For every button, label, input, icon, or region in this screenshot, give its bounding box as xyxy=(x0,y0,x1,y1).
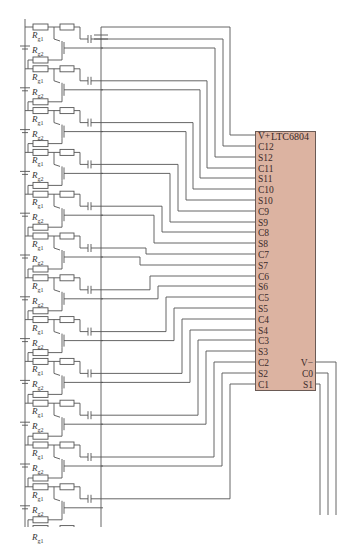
pin-c11: C11 xyxy=(258,164,273,174)
chip-title: LTC6804 xyxy=(271,131,309,142)
pin-s10: S10 xyxy=(258,196,273,206)
wire xyxy=(316,362,336,515)
wire xyxy=(54,164,60,166)
resistor-rg1 xyxy=(33,66,48,72)
wire xyxy=(101,164,255,211)
resistor-label: Rg2 xyxy=(32,255,44,268)
pin-s6: S6 xyxy=(258,282,268,292)
resistor-label: Rg2 xyxy=(32,339,44,352)
resistor-label: Rg2 xyxy=(32,297,44,310)
resistor-label: Rg2 xyxy=(32,422,44,435)
pin-v+: V+ xyxy=(258,131,270,141)
wire xyxy=(54,373,60,375)
ltc6804-chip: LTC6804 V+C12S12C11S11C10S10C9S9C8S8C7S7… xyxy=(255,131,316,391)
resistor-label: Rg2 xyxy=(32,464,44,477)
wire xyxy=(101,330,255,382)
resistor-rg1 xyxy=(33,108,48,114)
resistor-label: Rg2 xyxy=(32,380,44,393)
resistor-label: Rg1 xyxy=(32,324,44,337)
resistor-label: Rg1 xyxy=(32,156,44,169)
wire xyxy=(54,499,60,501)
wire xyxy=(101,257,255,265)
resistor-filter xyxy=(60,108,74,114)
wire xyxy=(316,384,320,515)
pin-c2: C2 xyxy=(258,358,269,368)
wire xyxy=(101,39,255,146)
resistor-label: Rg1 xyxy=(32,282,44,295)
wire xyxy=(101,362,255,457)
resistor-filter xyxy=(60,233,74,239)
resistor-label: Rg1 xyxy=(32,115,44,128)
resistor-label: Rg2 xyxy=(32,46,44,59)
wire xyxy=(54,206,60,208)
wire xyxy=(54,332,60,334)
resistor-label: Rg1 xyxy=(32,365,44,378)
pin-s9: S9 xyxy=(258,218,268,228)
pin-c0: C0 xyxy=(302,369,313,379)
pin-c3: C3 xyxy=(258,336,269,346)
resistor-filter xyxy=(60,358,74,364)
resistor-filter xyxy=(60,400,74,406)
wire xyxy=(101,373,255,466)
resistor-label: Rg1 xyxy=(32,240,44,253)
pin-c7: C7 xyxy=(258,250,269,260)
pin-s4: S4 xyxy=(258,326,268,336)
pin-s5: S5 xyxy=(258,304,268,314)
resistor-label: Rg1 xyxy=(32,73,44,86)
resistor-label: Rg1 xyxy=(32,449,44,462)
pin-s3: S3 xyxy=(258,347,268,357)
resistor-label: Rg2 xyxy=(32,88,44,101)
wire xyxy=(101,319,255,373)
resistor-filter xyxy=(60,191,74,197)
wire xyxy=(54,248,60,250)
resistor-label: Rg2 xyxy=(32,506,44,519)
resistor-label: Rg1 xyxy=(32,533,44,545)
resistor-filter xyxy=(60,484,74,490)
resistor-filter xyxy=(60,275,74,281)
resistor-filter xyxy=(60,149,74,155)
pin-v−: V− xyxy=(301,358,313,368)
resistor-rg1 xyxy=(33,526,48,527)
pin-c8: C8 xyxy=(258,228,269,238)
resistor-label: Rg2 xyxy=(32,213,44,226)
pin-c4: C4 xyxy=(258,315,269,325)
wire xyxy=(101,215,255,243)
pin-c10: C10 xyxy=(258,185,274,195)
pin-c1: C1 xyxy=(258,380,269,390)
wire xyxy=(101,81,255,168)
pin-c12: C12 xyxy=(258,142,274,152)
resistor-rg1 xyxy=(33,484,48,490)
pin-c6: C6 xyxy=(258,272,269,282)
pin-s11: S11 xyxy=(258,174,272,184)
resistor-filter xyxy=(60,317,74,323)
wire xyxy=(101,276,255,290)
wire xyxy=(101,308,255,341)
pin-c5: C5 xyxy=(258,293,269,303)
resistor-label: Rg2 xyxy=(32,171,44,184)
wire xyxy=(316,373,328,515)
pin-s12: S12 xyxy=(258,153,273,163)
wire xyxy=(54,39,60,41)
pin-s2: S2 xyxy=(258,369,268,379)
resistor-filter xyxy=(60,24,74,30)
resistor-filter xyxy=(60,66,74,72)
wire xyxy=(54,123,60,125)
wire xyxy=(101,297,255,332)
resistor-label: Rg1 xyxy=(32,31,44,44)
resistor-filter xyxy=(60,526,74,527)
resistor-label: Rg1 xyxy=(32,491,44,504)
wire xyxy=(54,81,60,83)
resistor-rg1 xyxy=(33,275,48,281)
wire xyxy=(101,248,255,254)
resistor-label: Rg2 xyxy=(32,130,44,143)
wire xyxy=(101,384,255,499)
resistor-rg1 xyxy=(33,317,48,323)
pin-s8: S8 xyxy=(258,239,268,249)
resistor-label: Rg1 xyxy=(32,407,44,420)
pin-s7: S7 xyxy=(258,261,268,271)
resistor-label: Rg1 xyxy=(32,198,44,211)
wire xyxy=(54,457,60,459)
pin-c9: C9 xyxy=(258,207,269,217)
wire xyxy=(54,290,60,292)
wire xyxy=(101,48,255,157)
